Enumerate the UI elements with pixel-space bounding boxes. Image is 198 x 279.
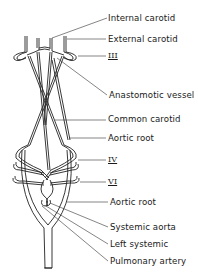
label-aortic-root-lower: Aortic root (110, 197, 156, 207)
label-systemic-aorta: Systemic aorta (110, 222, 176, 232)
label-pulmonary-artery: Pulmonary artery (110, 256, 186, 266)
aortic-arches (13, 145, 79, 206)
label-arch-vi: VI (108, 177, 117, 187)
label-internal-carotid: Internal carotid (108, 13, 175, 23)
label-anastomotic-vessel: Anastomotic vessel (109, 90, 194, 100)
label-aortic-root-upper: Aortic root (108, 133, 154, 143)
label-left-systemic: Left systemic (110, 239, 168, 249)
label-arch-iii: III (108, 51, 118, 61)
common-carotid-vessels (28, 52, 70, 170)
label-external-carotid: External carotid (108, 34, 178, 44)
label-common-carotid: Common carotid (108, 114, 181, 124)
label-arch-iv: IV (108, 155, 117, 165)
carotid-vessels (14, 36, 77, 61)
